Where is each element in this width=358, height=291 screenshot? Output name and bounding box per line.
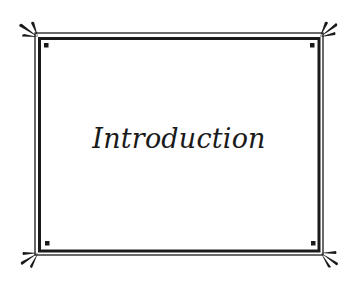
title-page: Introduction [0, 0, 358, 291]
corner-square-bottom-right [311, 241, 316, 246]
corner-square-bottom-left [45, 241, 50, 246]
corner-flourish-top-left [19, 22, 38, 37]
page-title: Introduction [35, 121, 323, 157]
corner-square-top-right [310, 43, 315, 48]
corner-square-top-left [44, 43, 49, 48]
corner-flourish-bottom-left [21, 252, 38, 268]
